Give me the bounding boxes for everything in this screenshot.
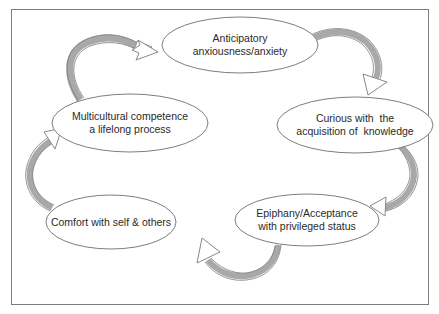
- cycle-diagram: [0, 0, 439, 314]
- node-curious-shape: [277, 97, 433, 153]
- arrow-multicultural-to-anticipatory: [67, 35, 158, 100]
- node-multicultural-shape: [52, 94, 208, 152]
- arrow-anticipatory-to-curious: [307, 29, 387, 95]
- arrow-epiphany-to-comfort: [197, 238, 281, 280]
- node-epiphany-shape: [235, 194, 379, 246]
- node-anticipatory-shape: [162, 17, 318, 73]
- arrow-comfort-to-multicultural: [26, 128, 62, 211]
- node-comfort-shape: [46, 195, 176, 249]
